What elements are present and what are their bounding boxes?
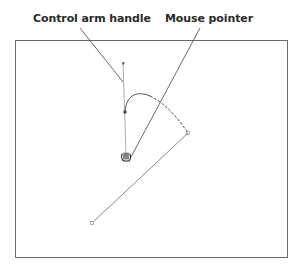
control-arm-leader-line xyxy=(80,28,123,82)
hand-grab-icon xyxy=(122,153,131,161)
diagram-svg xyxy=(0,0,299,274)
mouse-pointer-leader-line xyxy=(131,28,200,157)
control-arm-handle[interactable] xyxy=(122,62,125,65)
curve-segment xyxy=(125,94,150,112)
curve-preview-segment xyxy=(150,96,188,133)
straight-segment xyxy=(92,133,188,223)
canvas-frame xyxy=(16,41,288,258)
start-anchor-point[interactable] xyxy=(91,222,94,225)
